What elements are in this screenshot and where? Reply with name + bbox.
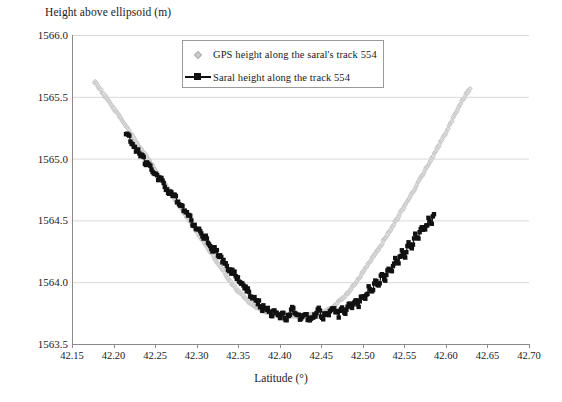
x-tick-label: 42.50 [340, 350, 386, 361]
x-tick-label: 42.40 [257, 350, 303, 361]
saral-line-marker-icon [183, 69, 213, 85]
x-tick-label: 42.20 [91, 350, 137, 361]
x-tick-label: 42.15 [49, 350, 95, 361]
chart-figure: Height above ellipsoid (m) 1563.51564.01… [0, 0, 562, 402]
legend-label-saral: Saral height along the track 554 [213, 72, 350, 83]
x-tick-label: 42.45 [298, 350, 344, 361]
x-tick-label: 42.60 [423, 350, 469, 361]
chart-legend: GPS height along the saral's track 554 S… [182, 40, 384, 88]
x-tick-label: 42.30 [174, 350, 220, 361]
x-tick-label: 42.35 [215, 350, 261, 361]
x-tick-label: 42.65 [464, 350, 510, 361]
x-axis-title: Latitude (°) [0, 372, 562, 384]
legend-item-gps: GPS height along the saral's track 554 [183, 42, 383, 66]
gps-diamond-marker-icon [183, 46, 213, 62]
x-tick-label: 42.55 [381, 350, 427, 361]
legend-label-gps: GPS height along the saral's track 554 [213, 49, 377, 60]
x-tick-label: 42.25 [132, 350, 178, 361]
legend-item-saral: Saral height along the track 554 [183, 65, 383, 89]
x-tick-label: 42.70 [506, 350, 552, 361]
